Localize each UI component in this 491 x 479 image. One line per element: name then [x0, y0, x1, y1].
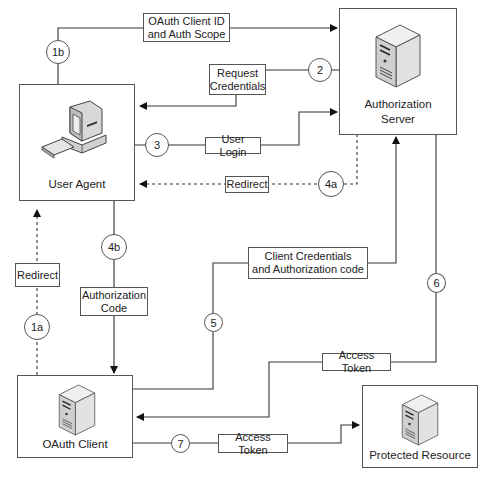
flow-2-line-b: [140, 94, 236, 106]
protected-resource-node: Protected Resource: [362, 385, 478, 468]
step-4a-badge: 4a: [318, 171, 344, 197]
label-4b-authorization-code: Authorization Code: [80, 287, 148, 316]
label-3-user-login: User Login: [205, 137, 261, 154]
step-1b-badge: 1b: [46, 40, 70, 64]
step-7-badge: 7: [171, 434, 190, 453]
step-5-badge: 5: [204, 313, 223, 332]
user-agent-node: User Agent: [19, 84, 135, 201]
label-4a-redirect: Redirect: [225, 176, 269, 193]
label-7-access-token: Access Token: [218, 434, 288, 453]
step-4b-badge: 4b: [101, 234, 127, 260]
label-6-access-token: Access Token: [322, 353, 391, 371]
label-2-request-credentials: Request Credentials: [209, 64, 266, 95]
authorization-server-label: Authorization Server: [340, 97, 456, 127]
label-1a-redirect: Redirect: [15, 263, 60, 287]
label-5-client-credentials: Client Credentials and Authorization cod…: [248, 247, 368, 279]
step-2-badge: 2: [308, 58, 332, 82]
authorization-server-node: Authorization Server: [339, 8, 457, 135]
label-1b-client-id-scope: OAuth Client ID and Auth Scope: [143, 13, 230, 42]
server-tower-icon: [372, 23, 424, 89]
server-tower-icon: [56, 382, 98, 438]
desktop-computer-icon: [40, 99, 110, 161]
flow-5-line-b: [367, 137, 396, 263]
server-tower-icon: [399, 392, 441, 448]
user-agent-label: User Agent: [20, 177, 134, 192]
protected-resource-label: Protected Resource: [363, 448, 477, 463]
oauth-client-label: OAuth Client: [18, 437, 132, 452]
step-1a-badge: 1a: [24, 314, 50, 340]
step-3-badge: 3: [145, 133, 169, 157]
flow-5-line: [132, 263, 248, 389]
flow-6-line: [390, 134, 436, 362]
oauth-client-node: OAuth Client: [17, 375, 133, 458]
step-6-badge: 6: [427, 273, 446, 293]
